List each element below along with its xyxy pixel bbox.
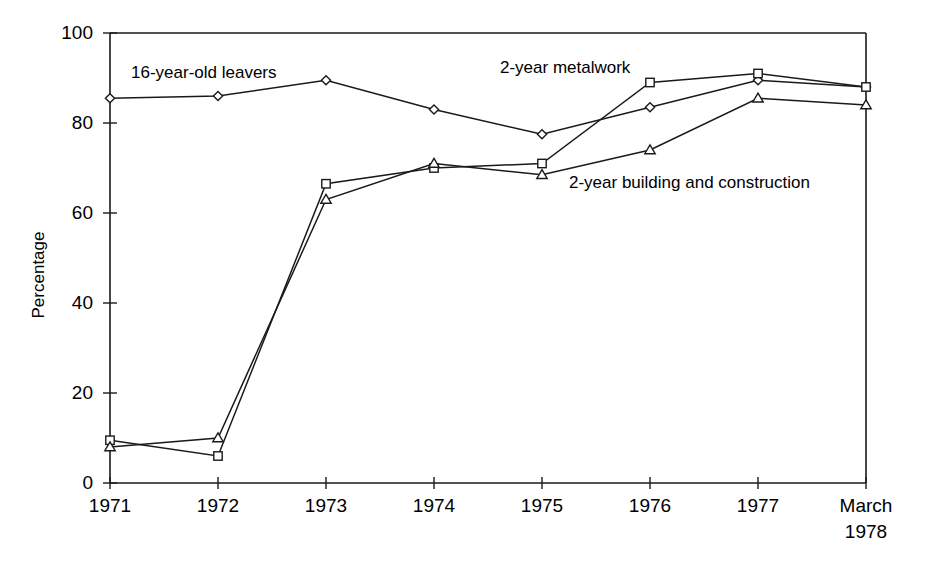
data-series <box>105 93 871 451</box>
data-point-marker <box>753 93 763 102</box>
data-point-marker <box>214 452 222 460</box>
x-tick-label-secondary: 1978 <box>845 521 887 542</box>
y-tick-label: 40 <box>72 292 93 313</box>
series-label: 2-year building and construction <box>569 173 810 192</box>
y-tick-label: 0 <box>82 472 93 493</box>
data-point-marker <box>321 76 330 85</box>
series-line <box>110 74 866 457</box>
chart-container: 020406080100 197119721973197419751976197… <box>0 0 936 575</box>
series-line <box>110 80 866 134</box>
x-tick-label: March <box>840 495 893 516</box>
data-point-marker <box>645 145 655 154</box>
data-point-marker <box>646 78 654 86</box>
series-layer <box>105 69 871 460</box>
data-point-marker <box>213 433 223 442</box>
x-tick-label: 1971 <box>89 495 131 516</box>
data-point-marker <box>322 180 330 188</box>
x-tick-label: 1974 <box>413 495 456 516</box>
x-axis-ticks: 1971197219731974197519761977March1978 <box>89 477 893 542</box>
y-tick-label: 100 <box>61 22 93 43</box>
data-point-marker <box>645 103 654 112</box>
line-chart: 020406080100 197119721973197419751976197… <box>0 0 936 575</box>
x-tick-label: 1977 <box>737 495 779 516</box>
data-point-marker <box>862 83 870 91</box>
data-point-marker <box>429 105 438 114</box>
x-tick-label: 1976 <box>629 495 671 516</box>
data-series <box>106 69 870 460</box>
data-point-marker <box>537 130 546 139</box>
data-point-marker <box>754 69 762 77</box>
data-point-marker <box>105 94 114 103</box>
series-label: 2-year metalwork <box>500 58 631 77</box>
x-tick-label: 1972 <box>197 495 239 516</box>
y-tick-label: 20 <box>72 382 93 403</box>
data-point-marker <box>429 158 439 167</box>
data-series <box>105 76 870 139</box>
y-tick-label: 80 <box>72 112 93 133</box>
data-point-marker <box>213 91 222 100</box>
x-tick-label: 1975 <box>521 495 563 516</box>
y-axis-ticks: 020406080100 <box>61 22 117 493</box>
y-tick-label: 60 <box>72 202 93 223</box>
x-tick-label: 1973 <box>305 495 347 516</box>
data-point-marker <box>538 159 546 167</box>
series-line <box>110 98 866 447</box>
y-axis-title: Percentage <box>29 232 48 319</box>
series-label: 16-year-old leavers <box>131 63 277 82</box>
